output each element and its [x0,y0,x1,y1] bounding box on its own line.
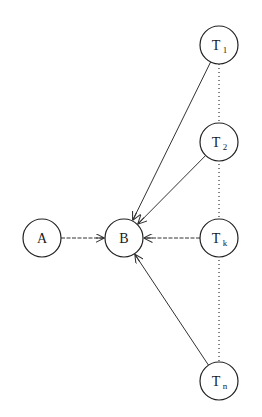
node-subscript-Tn: n [223,381,228,391]
diagram-canvas: ABT1T2TkTn [0,0,262,417]
node-Tn: Tn [200,362,238,400]
node-T2: T2 [200,123,238,161]
edge-Tn-to-B [135,254,209,365]
node-label-B: B [119,231,128,246]
node-subscript-T2: 2 [223,142,228,152]
node-label-Tk: T [212,231,221,246]
node-Tk: Tk [200,219,238,257]
edge-T1-to-B [133,62,211,220]
node-T1: T1 [200,26,238,64]
node-subscript-T1: 1 [223,45,228,55]
node-label-T2: T [212,135,221,150]
node-label-A: A [37,231,48,246]
node-subscript-Tk: k [223,238,228,248]
node-A: A [23,219,61,257]
edges [61,62,211,365]
node-label-Tn: T [212,374,221,389]
node-B: B [105,219,143,257]
nodes: ABT1T2TkTn [23,26,238,400]
node-label-T1: T [212,38,221,53]
